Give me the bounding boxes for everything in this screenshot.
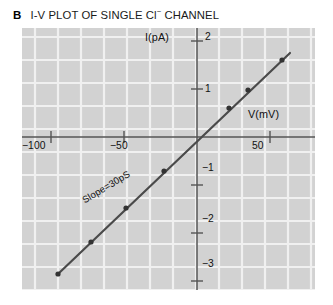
x-tick-label-minus-100: −100: [22, 140, 46, 151]
data-point: [55, 271, 60, 276]
x-axis-label: V(mV): [248, 108, 279, 120]
y-tick-label-2: 2: [205, 31, 211, 42]
y-tick-label-minus-2: −2: [202, 213, 214, 224]
y-tick-label-minus-3: −3: [202, 258, 214, 269]
x-tick-label-minus-50: −50: [110, 140, 128, 151]
panel-letter: B: [13, 9, 22, 21]
plot-area: [22, 28, 315, 290]
data-point: [226, 105, 231, 110]
data-series: [22, 28, 315, 290]
page-title: I-V PLOT OF SINGLE Cl− CHANNEL: [31, 7, 220, 21]
data-point: [161, 168, 166, 173]
figure-panel-b: B I-V PLOT OF SINGLE Cl− CHANNEL: [0, 0, 333, 305]
figure-title-row: B I-V PLOT OF SINGLE Cl− CHANNEL: [13, 7, 219, 21]
y-tick-label-1: 1: [205, 83, 211, 94]
data-point: [88, 239, 93, 244]
title-text-suffix: CHANNEL: [161, 9, 219, 21]
data-point: [245, 87, 250, 92]
data-point: [279, 57, 284, 62]
y-tick-label-minus-1: −1: [202, 162, 214, 173]
data-point: [123, 205, 128, 210]
x-tick-label-50: 50: [252, 140, 264, 151]
title-text-prefix: I-V PLOT OF SINGLE Cl: [31, 9, 157, 21]
y-axis-label: I(pA): [145, 31, 169, 43]
